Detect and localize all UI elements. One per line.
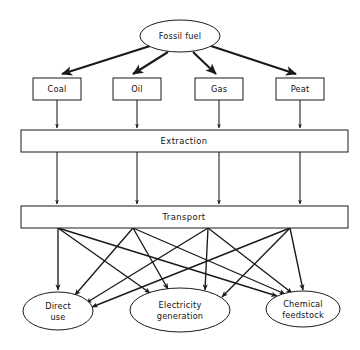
edge-fossilfuel-to-oil <box>133 52 168 74</box>
node-peat[interactable]: Peat <box>276 78 324 100</box>
node-electricity-generation[interactable]: Electricity generation <box>130 288 230 332</box>
edge-fossilfuel-to-coal <box>62 46 150 74</box>
edge-transport2-to-direct-use <box>75 228 133 295</box>
chemical-feedstock-label-line2: feedstock <box>282 310 324 320</box>
transport-label: Transport <box>162 212 206 222</box>
edge-transport1-to-chemical <box>58 228 277 296</box>
electricity-generation-label-line2: generation <box>157 311 204 321</box>
fossil-fuel-flow-diagram: Fossil fuel Coal Oil Gas Peat Extraction… <box>0 0 360 350</box>
extraction-label: Extraction <box>161 136 208 146</box>
peat-label: Peat <box>291 84 310 94</box>
oil-label: Oil <box>131 84 143 94</box>
edge-fossilfuel-to-peat <box>211 46 296 74</box>
chemical-feedstock-label-line1: Chemical <box>283 299 323 309</box>
edges-fuels-to-extraction <box>57 100 300 128</box>
fossil-fuel-label: Fossil fuel <box>159 31 202 41</box>
node-oil[interactable]: Oil <box>113 78 161 100</box>
edge-transport2-to-electricity <box>133 228 168 289</box>
node-extraction[interactable]: Extraction <box>21 130 348 152</box>
electricity-generation-label-line1: Electricity <box>159 300 202 310</box>
node-gas[interactable]: Gas <box>195 78 243 100</box>
node-fossil-fuel[interactable]: Fossil fuel <box>140 20 220 52</box>
node-coal[interactable]: Coal <box>33 78 81 100</box>
direct-use-label-line2: use <box>50 312 65 322</box>
edge-transport3-to-chemical <box>208 228 292 293</box>
edge-fossilfuel-to-gas <box>193 52 216 74</box>
direct-use-label-line1: Direct <box>45 301 71 311</box>
node-transport[interactable]: Transport <box>21 206 348 228</box>
node-chemical-feedstock[interactable]: Chemical feedstock <box>266 291 340 327</box>
node-direct-use[interactable]: Direct use <box>23 292 93 330</box>
edge-transport4-to-electricity <box>222 228 290 297</box>
gas-label: Gas <box>211 84 227 94</box>
edge-transport4-to-chemical <box>290 228 303 290</box>
flow-diagram-canvas: Fossil fuel Coal Oil Gas Peat Extraction… <box>0 0 360 350</box>
coal-label: Coal <box>48 84 67 94</box>
edges-extraction-to-transport <box>57 152 300 204</box>
